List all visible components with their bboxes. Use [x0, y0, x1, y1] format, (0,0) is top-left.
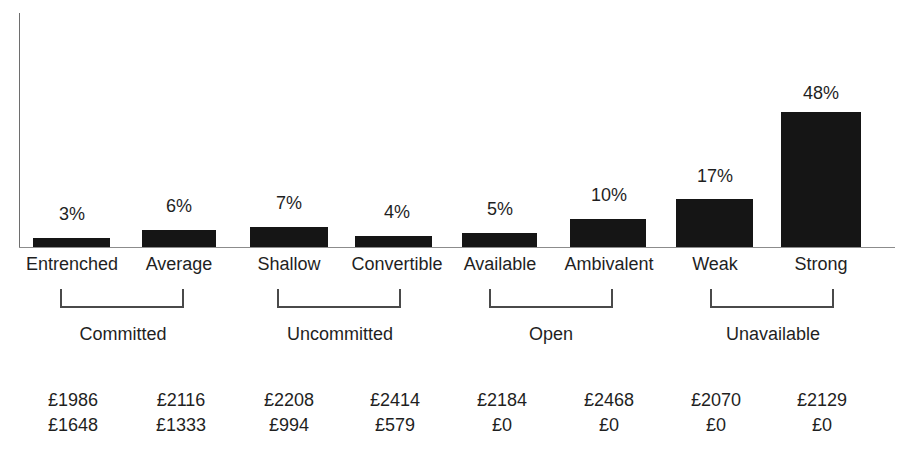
footer-value-row2: £1648: [18, 414, 128, 436]
bar-value-label: 4%: [335, 203, 459, 221]
footer-value-row1: £1986: [18, 389, 128, 411]
bar-strong: [781, 112, 861, 247]
bar-chart: EntrenchedAverageShallowConvertibleAvail…: [0, 0, 901, 460]
category-label-ambivalent: Ambivalent: [548, 253, 670, 275]
category-label-entrenched: Entrenched: [10, 253, 134, 275]
footer-value-row2: £579: [340, 414, 450, 436]
group-label-open: Open: [470, 323, 632, 345]
footer-value-row2: £1333: [126, 414, 236, 436]
bar-ambivalent: [570, 219, 646, 247]
footer-value-row1: £2184: [447, 389, 557, 411]
category-label-available: Available: [443, 253, 557, 275]
bar-entrenched: [33, 238, 110, 247]
footer-value-row2: £0: [554, 414, 664, 436]
footer-value-row1: £2468: [554, 389, 664, 411]
group-label-committed: Committed: [38, 323, 208, 345]
category-label-shallow: Shallow: [231, 253, 347, 275]
category-label-average: Average: [120, 253, 238, 275]
bar-available: [462, 233, 537, 247]
category-label-convertible: Convertible: [335, 253, 459, 275]
bar-value-label: 17%: [657, 167, 773, 185]
bar-value-label: 6%: [120, 197, 238, 215]
bar-value-label: 5%: [443, 200, 557, 218]
group-bracket-uncommitted: [277, 289, 401, 308]
footer-value-row2: £0: [767, 414, 877, 436]
bar-value-label: 3%: [10, 205, 134, 223]
bar-value-label: 48%: [761, 84, 881, 102]
group-bracket-unavailable: [710, 289, 834, 308]
group-label-unavailable: Unavailable: [685, 323, 861, 345]
group-bracket-open: [489, 289, 613, 308]
bar-weak: [676, 199, 753, 247]
bar-convertible: [355, 236, 432, 247]
footer-value-row2: £994: [234, 414, 344, 436]
bar-shallow: [250, 227, 328, 247]
bar-average: [142, 230, 216, 247]
bar-value-label: 10%: [548, 186, 670, 204]
bar-value-label: 7%: [231, 194, 347, 212]
footer-value-row1: £2070: [661, 389, 771, 411]
footer-value-row1: £2129: [767, 389, 877, 411]
category-label-strong: Strong: [761, 253, 881, 275]
footer-value-row1: £2116: [126, 389, 236, 411]
footer-value-row1: £2208: [234, 389, 344, 411]
group-label-uncommitted: Uncommitted: [250, 323, 430, 345]
footer-value-row1: £2414: [340, 389, 450, 411]
footer-value-row2: £0: [447, 414, 557, 436]
category-label-weak: Weak: [657, 253, 773, 275]
footer-value-row2: £0: [661, 414, 771, 436]
group-bracket-committed: [60, 289, 184, 308]
